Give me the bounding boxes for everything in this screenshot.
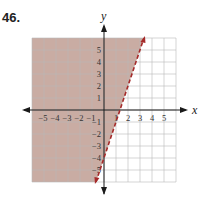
x-axis-label: x	[191, 103, 198, 117]
y-tick-label: −5	[92, 165, 101, 175]
y-axis-arrow-down-icon	[101, 187, 107, 195]
x-tick-label: 2	[126, 113, 130, 123]
y-tick-label: 3	[97, 69, 101, 79]
y-tick-label: 2	[97, 81, 101, 91]
x-tick-label: 3	[138, 113, 142, 123]
y-tick-label: −2	[92, 129, 101, 139]
y-axis-label: y	[100, 9, 107, 23]
x-tick-label: 5	[162, 113, 166, 123]
line-arrow-down-icon	[94, 177, 99, 184]
y-tick-label: −1	[92, 117, 101, 127]
y-tick-label: −3	[92, 141, 101, 151]
x-tick-label: −4	[50, 113, 60, 123]
x-tick-label: −3	[62, 113, 71, 123]
inequality-graph: xy−5−4−3−2−11234554321−1−2−3−4−5	[0, 0, 205, 197]
x-axis-arrow-left-icon	[22, 107, 30, 113]
x-tick-label: −5	[38, 113, 47, 123]
x-tick-label: −2	[74, 113, 83, 123]
y-axis-arrow-up-icon	[101, 24, 107, 32]
y-tick-label: 5	[97, 45, 101, 55]
y-tick-label: −4	[92, 153, 102, 163]
y-tick-label: 1	[97, 93, 101, 103]
x-axis-arrow-right-icon	[180, 107, 188, 113]
x-tick-label: 4	[150, 113, 155, 123]
